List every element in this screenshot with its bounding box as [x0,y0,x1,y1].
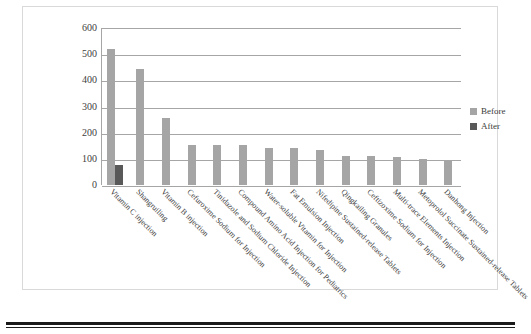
bar-group [435,29,461,185]
bar-before[interactable] [188,145,196,185]
y-axis: 6005004003002001000 [63,28,97,185]
legend-swatch-icon [470,123,477,130]
bar-group [358,29,384,185]
y-axis-tick-label: 100 [63,154,97,164]
y-axis-tick-label: 500 [63,49,97,59]
x-axis-tick-label: Metoprolol Succinate Sustained-release T… [417,188,530,301]
footer-rule-thin [6,327,515,328]
gridline [102,186,461,187]
x-axis-tick-label: Vitamin C injection [108,188,158,238]
bar-before[interactable] [107,49,115,185]
y-axis-tick-label: 400 [63,75,97,85]
bar-group [281,29,307,185]
bar-slot[interactable] [384,29,410,185]
bar-before[interactable] [213,145,221,185]
bar-slot[interactable] [153,29,179,185]
bar-slot[interactable] [205,29,231,185]
bar-slot[interactable] [102,29,128,185]
bar-slot[interactable] [230,29,256,185]
bar-group [410,29,436,185]
bar-after[interactable] [115,165,123,185]
footer-rule-thick [6,322,515,325]
bar-group [102,29,128,185]
bar-group [205,29,231,185]
bar-group [179,29,205,185]
bar-group [153,29,179,185]
legend-swatch-icon [470,108,477,115]
bar-before[interactable] [393,157,401,185]
chart-container: 6005004003002001000 Vitamin C injectionS… [22,6,498,290]
bar-before[interactable] [444,161,452,185]
chart-legend: BeforeAfter [470,107,506,137]
bar-slot[interactable] [128,29,154,185]
bar-slot[interactable] [179,29,205,185]
bar-slot[interactable] [307,29,333,185]
legend-label: After [481,122,500,131]
bar-before[interactable] [136,69,144,185]
bar-group [384,29,410,185]
y-axis-tick-label: 600 [63,23,97,33]
plot-area [101,28,461,185]
legend-item[interactable]: Before [470,107,506,116]
bar-slot[interactable] [256,29,282,185]
bar-before[interactable] [265,148,273,185]
bar-group [256,29,282,185]
bar-group [333,29,359,185]
x-axis-tick-label: Danhong Injection [442,188,490,236]
bar-slot[interactable] [281,29,307,185]
bar-before[interactable] [290,148,298,185]
y-axis-tick-label: 200 [63,128,97,138]
bar-before[interactable] [342,156,350,185]
legend-item[interactable]: After [470,122,506,131]
bar-before[interactable] [419,159,427,185]
bar-slot[interactable] [435,29,461,185]
bar-before[interactable] [239,145,247,185]
legend-label: Before [481,107,506,116]
bar-group [230,29,256,185]
bar-group [128,29,154,185]
bar-before[interactable] [316,150,324,185]
y-axis-tick-label: 300 [63,102,97,112]
bar-before[interactable] [367,156,375,185]
bars-layer [102,29,461,185]
bar-group [307,29,333,185]
bar-before[interactable] [162,118,170,186]
bar-slot[interactable] [410,29,436,185]
y-axis-tick-label: 0 [63,180,97,190]
bar-slot[interactable] [333,29,359,185]
bar-slot[interactable] [358,29,384,185]
